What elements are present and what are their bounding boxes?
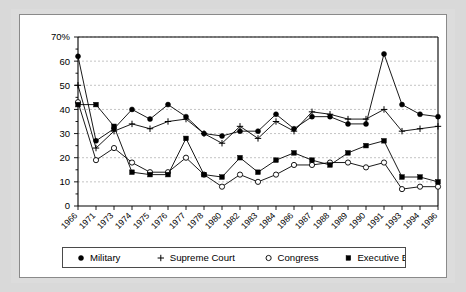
legend-label: Congress <box>278 252 319 263</box>
data-point-marker <box>345 160 350 165</box>
data-point-marker <box>148 117 153 122</box>
series-line <box>78 102 438 189</box>
data-point-marker <box>382 51 387 56</box>
data-point-marker <box>363 165 368 170</box>
data-point-marker <box>147 126 153 132</box>
data-point-marker <box>220 133 225 138</box>
data-point-marker <box>183 155 188 160</box>
legend-marker-plus <box>158 255 164 261</box>
data-point-marker <box>165 118 171 124</box>
data-point-marker <box>418 175 423 180</box>
x-axis-tick-label: 1980 <box>203 210 224 231</box>
data-point-marker <box>399 187 404 192</box>
data-point-marker <box>94 102 99 107</box>
data-point-marker <box>202 172 207 177</box>
legend-marker-filled-square <box>346 256 351 261</box>
data-point-marker <box>255 179 260 184</box>
legend-items: MilitarySupreme CourtCongressExecutive B… <box>63 248 405 267</box>
x-axis-tick-label: 1990 <box>347 210 368 231</box>
y-axis-tick-label: 70% <box>51 31 71 42</box>
x-axis-tick-label: 1983 <box>239 210 260 231</box>
x-axis-tick-label: 1966 <box>59 210 80 231</box>
x-axis-tick-label: 1971 <box>77 210 98 231</box>
x-axis-tick-label: 1987 <box>293 210 314 231</box>
data-point-marker <box>400 102 405 107</box>
x-axis-tick-label: 1974 <box>113 210 134 231</box>
x-axis-tick-label: 1986 <box>275 210 296 231</box>
x-axis-tick-label: 1976 <box>149 210 170 231</box>
legend-item-supreme-court[interactable]: Supreme Court <box>158 252 236 263</box>
chart-legend: MilitarySupreme CourtCongressExecutive B… <box>62 247 406 268</box>
data-point-marker <box>129 160 134 165</box>
legend-label: Supreme Court <box>170 252 235 263</box>
data-point-marker <box>400 175 405 180</box>
data-point-marker <box>381 160 386 165</box>
data-point-marker <box>291 162 296 167</box>
y-axis-tick-label: 50 <box>59 80 70 91</box>
data-point-marker <box>130 107 135 112</box>
series-military <box>76 51 441 143</box>
data-point-marker <box>292 151 297 156</box>
data-point-marker <box>148 172 153 177</box>
legend-item-executive-branch[interactable]: Executive Branch <box>346 252 405 263</box>
data-point-marker <box>220 175 225 180</box>
data-point-marker <box>112 124 117 129</box>
legend-marker-filled-circle <box>79 256 84 261</box>
x-axis-tick-label: 1978 <box>185 210 206 231</box>
x-axis-tick-label: 1994 <box>401 210 422 231</box>
data-point-marker <box>328 163 333 168</box>
data-point-marker <box>219 184 224 189</box>
legend-label: Military <box>90 252 121 263</box>
legend-label: Executive Branch <box>357 252 405 263</box>
data-point-marker <box>364 143 369 148</box>
y-axis-tick-label: 30 <box>59 128 70 139</box>
data-point-marker <box>93 158 98 163</box>
data-point-marker <box>274 112 279 117</box>
data-point-marker <box>75 82 81 88</box>
series-congress <box>75 100 440 192</box>
data-point-marker <box>310 158 315 163</box>
chart-card: 010203040506070%196619711973197419751976… <box>19 14 447 278</box>
x-axis-tick-label: 1982 <box>221 210 242 231</box>
data-point-marker <box>129 121 135 127</box>
chart-screenshot: 010203040506070%196619711973197419751976… <box>0 0 466 292</box>
data-point-marker <box>184 136 189 141</box>
y-axis-tick-label: 60 <box>59 56 70 67</box>
data-point-marker <box>76 54 81 59</box>
y-axis-tick-label: 0 <box>65 200 70 211</box>
data-point-marker <box>166 102 171 107</box>
data-point-marker <box>256 170 261 175</box>
x-axis-tick-label: 1988 <box>311 210 332 231</box>
data-point-marker <box>273 172 278 177</box>
data-point-marker <box>274 158 279 163</box>
x-axis-tick-label: 1973 <box>95 210 116 231</box>
data-point-marker <box>130 170 135 175</box>
data-point-marker <box>418 112 423 117</box>
plot-area: 010203040506070%196619711973197419751976… <box>20 15 448 279</box>
series-line <box>78 54 438 141</box>
x-axis-tick-label: 1989 <box>329 210 350 231</box>
x-axis-tick-label: 1977 <box>167 210 188 231</box>
legend-item-military[interactable]: Military <box>79 252 121 263</box>
data-point-marker <box>435 184 440 189</box>
data-point-marker <box>435 123 441 129</box>
y-axis-tick-label: 40 <box>59 104 70 115</box>
data-point-marker <box>76 102 81 107</box>
data-point-marker <box>237 172 242 177</box>
data-point-marker <box>166 172 171 177</box>
data-point-marker <box>417 126 423 132</box>
line-chart: 010203040506070%196619711973197419751976… <box>20 15 448 279</box>
x-axis-tick-label: 1996 <box>419 210 440 231</box>
data-point-marker <box>346 151 351 156</box>
y-axis-tick-label: 10 <box>59 176 70 187</box>
x-axis-tick-label: 1991 <box>365 210 386 231</box>
data-point-marker <box>417 184 422 189</box>
data-point-marker <box>238 155 243 160</box>
data-point-marker <box>436 180 441 185</box>
y-axis-tick-label: 20 <box>59 152 70 163</box>
data-point-marker <box>256 129 261 134</box>
legend-item-congress[interactable]: Congress <box>266 252 319 263</box>
data-point-marker <box>345 116 351 122</box>
series-executive-branch <box>76 102 441 184</box>
x-axis-tick-label: 1993 <box>383 210 404 231</box>
